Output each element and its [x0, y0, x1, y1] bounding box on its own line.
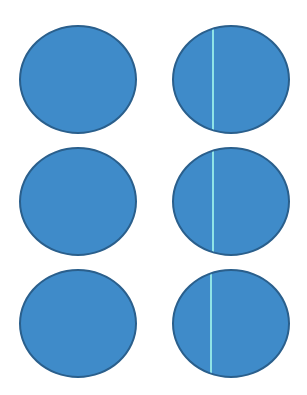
divider-line [212, 27, 214, 132]
circle-row2-right [172, 147, 290, 256]
circle-row2-left [19, 147, 137, 256]
divider-line [212, 149, 214, 254]
divider-line [210, 271, 212, 376]
circle-row3-left [19, 269, 137, 378]
circle-row3-right [172, 269, 290, 378]
circle-row1-right [172, 25, 290, 134]
circle-row1-left [19, 25, 137, 134]
